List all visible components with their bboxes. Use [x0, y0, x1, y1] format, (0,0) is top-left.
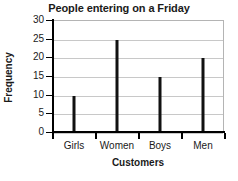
gridline	[52, 58, 223, 59]
gridline	[52, 77, 223, 78]
x-tick-mark	[138, 133, 140, 139]
y-tick-mark	[46, 20, 52, 21]
gridline	[52, 40, 223, 41]
y-axis-title-label: Frequency	[3, 52, 14, 103]
plot-area	[52, 20, 224, 132]
bar	[202, 58, 205, 133]
gridline	[52, 21, 223, 22]
gridline	[52, 114, 223, 115]
y-axis-line	[52, 19, 54, 133]
y-axis-title: Frequency	[1, 24, 15, 130]
x-axis-title: Customers	[52, 157, 224, 168]
y-tick-mark	[46, 113, 52, 114]
y-tick-mark	[46, 95, 52, 96]
gridline	[52, 96, 223, 97]
bar	[159, 77, 162, 133]
y-tick-mark	[46, 39, 52, 40]
x-tick-mark	[181, 133, 183, 139]
y-tick-mark	[46, 57, 52, 58]
x-tick-label: Men	[193, 140, 212, 152]
y-tick-label: 10	[20, 90, 44, 100]
x-tick-label: Women	[100, 140, 134, 152]
y-tick-label: 5	[20, 108, 44, 118]
y-tick-label: 0	[20, 127, 44, 137]
y-tick-label: 20	[20, 52, 44, 62]
x-tick-mark	[95, 133, 97, 139]
x-tick-label: Boys	[149, 140, 171, 152]
x-tick-mark	[224, 133, 226, 139]
bar	[73, 96, 76, 133]
x-tick-label: Girls	[64, 140, 85, 152]
y-tick-label: 30	[20, 15, 44, 25]
y-tick-label: 25	[20, 34, 44, 44]
bar-chart: People entering on a Friday Frequency 05…	[0, 0, 238, 181]
bar	[116, 40, 119, 133]
x-tick-mark	[52, 133, 54, 139]
y-tick-mark	[46, 76, 52, 77]
y-tick-label: 15	[20, 71, 44, 81]
